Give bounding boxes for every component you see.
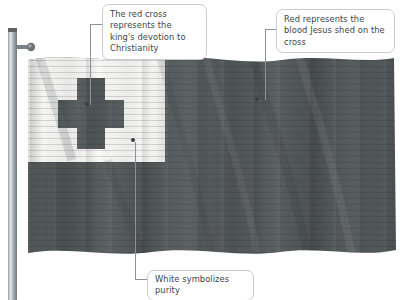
- flagpole-knob-highlight: [28, 44, 31, 47]
- leader-cross-horizontal: [90, 24, 102, 25]
- flag-body: [0, 40, 400, 270]
- leader-cross-endpoint-dot: [85, 102, 89, 106]
- leader-white-endpoint-dot: [131, 138, 135, 142]
- leader-cross-vertical: [90, 24, 91, 105]
- callout-cross-meaning[interactable]: The red cross represents the king's devo…: [102, 4, 207, 60]
- leader-red-vertical: [265, 29, 266, 100]
- leader-white-vertical: [135, 142, 136, 280]
- leader-red-endpoint-dot: [255, 97, 259, 101]
- callout-red-meaning[interactable]: Red represents the blood Jesus shed on t…: [276, 9, 395, 53]
- flag-diagram-stage: The red cross represents the king's devo…: [0, 0, 400, 300]
- flagpole-top-cap: [8, 28, 17, 32]
- callout-white-meaning[interactable]: White symbolizes purity: [147, 270, 254, 300]
- flagpole-shaft: [8, 28, 17, 300]
